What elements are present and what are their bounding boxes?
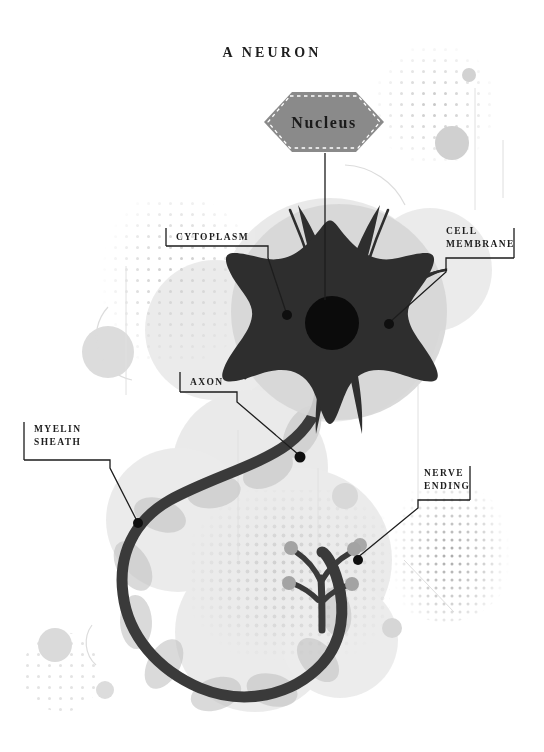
infographic-canvas: Nucleus A NEURON CYTOPLASM CELL MEMBRANE… xyxy=(0,0,544,752)
dot-axon xyxy=(295,452,306,463)
callout-label-cell-membrane-line2: MEMBRANE xyxy=(446,239,515,249)
nucleus-badge[interactable]: Nucleus xyxy=(264,92,384,152)
dot-nerve-ending xyxy=(353,555,363,565)
dot-cytoplasm xyxy=(282,310,292,320)
neuron-diagram: Nucleus A NEURON CYTOPLASM CELL MEMBRANE… xyxy=(0,0,544,752)
page-title: A NEURON xyxy=(222,45,321,60)
callout-label-axon: AXON xyxy=(190,377,224,387)
callout-label-myelin-line2: SHEATH xyxy=(34,437,81,447)
halftone-cluster-top-right xyxy=(373,43,497,167)
callout-label-nerve-ending-line1: NERVE xyxy=(424,468,464,478)
callout-label-cytoplasm: CYTOPLASM xyxy=(176,232,249,242)
halftone-cluster-right xyxy=(375,482,515,622)
callout-label-nerve-ending-line2: ENDING xyxy=(424,481,470,491)
dot-cell-membrane xyxy=(384,319,394,329)
nucleus-badge-label: Nucleus xyxy=(291,114,356,131)
callout-label-cell-membrane-line1: CELL xyxy=(446,226,477,236)
dot-myelin xyxy=(133,518,143,528)
nucleus-core xyxy=(305,296,359,350)
callout-label-myelin-line1: MYELIN xyxy=(34,424,81,434)
